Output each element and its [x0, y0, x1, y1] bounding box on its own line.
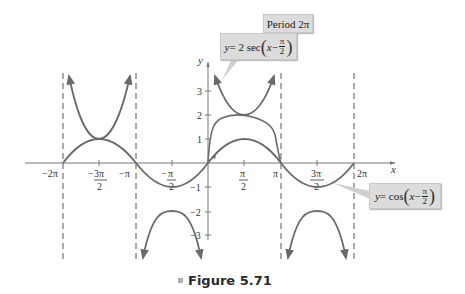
- secant-minus: −: [272, 41, 278, 53]
- svg-text:2: 2: [97, 181, 102, 192]
- svg-text:3π: 3π: [311, 168, 321, 179]
- secant-branch-up-center: [215, 76, 274, 115]
- period-callout: Period 2π: [263, 14, 313, 33]
- y-axis-label: y: [197, 54, 203, 66]
- figure-caption: Figure 5.71: [178, 273, 272, 288]
- svg-text:π: π: [240, 168, 245, 179]
- caption-text: Figure 5.71: [188, 273, 272, 288]
- secant-fraction: π2: [279, 37, 286, 56]
- svg-text:π: π: [168, 168, 173, 179]
- svg-text:−: −: [161, 168, 167, 179]
- svg-text:3: 3: [197, 86, 202, 97]
- secant-branch-down-right: [288, 211, 346, 258]
- cosine-fraction: π2: [422, 187, 429, 206]
- caption-bullet-icon: [178, 278, 183, 283]
- period-value: 2π: [298, 18, 309, 30]
- svg-text:3π: 3π: [94, 168, 104, 179]
- cosine-minus: −: [414, 190, 420, 202]
- svg-text:−2π: −2π: [42, 168, 58, 179]
- secant-fn: = 2 sec: [229, 41, 260, 53]
- x-tick-labels: −2π − 3π 2 −π − π 2 π 2 π 3π 2 2π: [42, 168, 367, 192]
- svg-text:2π: 2π: [357, 168, 367, 179]
- svg-text:−π: −π: [119, 168, 130, 179]
- svg-text:π: π: [273, 168, 278, 179]
- svg-text:2: 2: [197, 110, 202, 121]
- svg-text:−2: −2: [190, 207, 201, 218]
- cosine-callout: y = cos(x − π2): [369, 183, 441, 209]
- svg-text:−1: −1: [190, 182, 201, 193]
- svg-text:1: 1: [197, 134, 202, 145]
- period-label: Period: [267, 18, 296, 30]
- cosine-fn: = cos: [380, 190, 404, 202]
- svg-text:2: 2: [241, 181, 246, 192]
- secant-callout: y = 2 sec(x − π2): [220, 33, 297, 60]
- secant-callout-pointer: [222, 58, 240, 80]
- x-axis-label: x: [390, 163, 396, 175]
- cosine-callout-pointer: [333, 183, 370, 199]
- secant-branch-up-left: [69, 76, 130, 139]
